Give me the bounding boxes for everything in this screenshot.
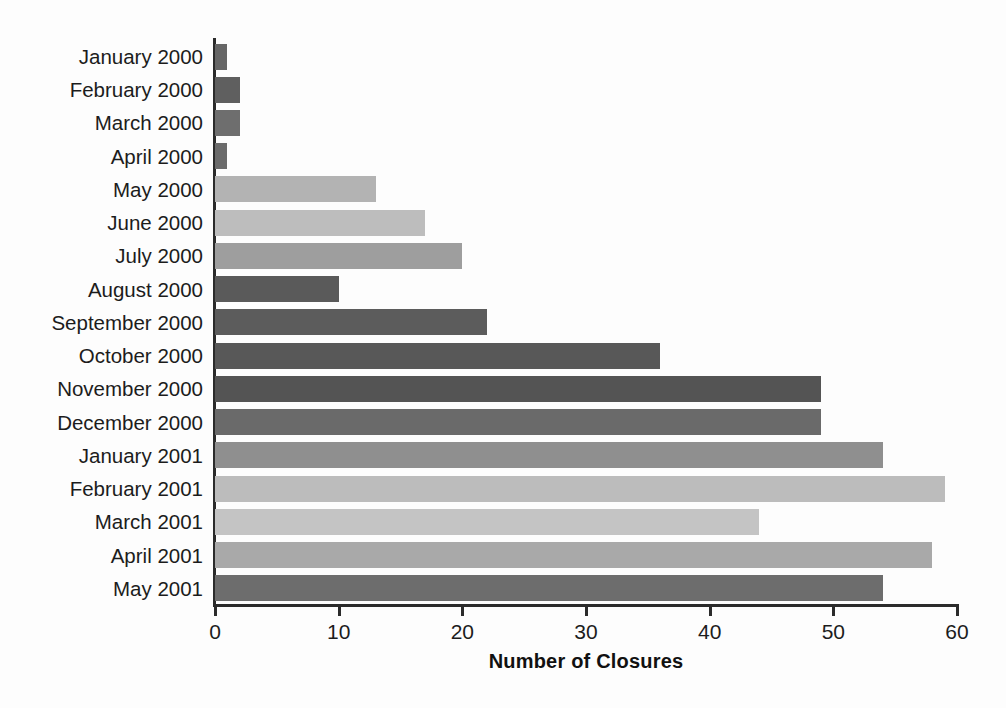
bar-row (215, 339, 957, 372)
bar (215, 176, 376, 202)
bar-row (215, 306, 957, 339)
bar (215, 476, 945, 502)
bar-row (215, 472, 957, 505)
y-axis-tick-label: May 2000 (113, 173, 213, 206)
bar-row (215, 273, 957, 306)
bar-row (215, 73, 957, 106)
bar (215, 409, 821, 435)
bar (215, 442, 883, 468)
x-axis-tick-mark (461, 604, 464, 616)
x-axis-tick-mark (338, 604, 341, 616)
y-axis-tick-label: April 2001 (111, 539, 213, 572)
y-axis-tick-label: March 2000 (95, 106, 213, 139)
y-axis-category-labels: January 2000February 2000March 2000April… (0, 40, 213, 605)
bar (215, 376, 821, 402)
bar (215, 343, 660, 369)
bar-row (215, 140, 957, 173)
bar-row (215, 173, 957, 206)
x-axis-tick-label: 10 (327, 620, 350, 644)
bar-row (215, 106, 957, 139)
x-axis-tick-mark (585, 604, 588, 616)
bar-row (215, 372, 957, 405)
bar-row (215, 572, 957, 605)
x-axis-tick-mark (709, 604, 712, 616)
bar (215, 309, 487, 335)
y-axis-tick-label: February 2001 (70, 472, 213, 505)
x-axis-tick-label: 0 (209, 620, 221, 644)
y-axis-tick-label: April 2000 (111, 140, 213, 173)
x-axis-tick-label: 40 (698, 620, 721, 644)
bar-row (215, 406, 957, 439)
y-axis-tick-label: March 2001 (95, 505, 213, 538)
y-axis-tick-label: January 2001 (79, 439, 213, 472)
bar (215, 243, 462, 269)
y-axis-tick-label: October 2000 (79, 339, 213, 372)
y-axis-tick-label: May 2001 (113, 572, 213, 605)
y-axis-tick-label: August 2000 (88, 273, 213, 306)
bar-row (215, 539, 957, 572)
x-axis-tick-mark (832, 604, 835, 616)
plot-area (215, 40, 957, 605)
bar (215, 44, 227, 70)
bar (215, 509, 759, 535)
x-axis-tick-mark (956, 604, 959, 616)
x-axis-tick-mark (214, 604, 217, 616)
y-axis-tick-label: June 2000 (107, 206, 213, 239)
x-axis-tick-label: 50 (822, 620, 845, 644)
bar (215, 575, 883, 601)
bar (215, 210, 425, 236)
bar-row (215, 239, 957, 272)
bar (215, 276, 339, 302)
bar-row (215, 439, 957, 472)
bar (215, 542, 932, 568)
y-axis-tick-label: January 2000 (79, 40, 213, 73)
x-axis-tick-label: 60 (945, 620, 968, 644)
y-axis-tick-label: February 2000 (70, 73, 213, 106)
x-axis-tick-label: 30 (574, 620, 597, 644)
bar-row (215, 206, 957, 239)
x-axis-tick-label: 20 (451, 620, 474, 644)
y-axis-tick-label: November 2000 (57, 372, 213, 405)
bar-row (215, 505, 957, 538)
bar (215, 77, 240, 103)
x-axis-title: Number of Closures (215, 650, 957, 673)
bar-chart-figure: January 2000February 2000March 2000April… (0, 0, 1006, 708)
y-axis-tick-label: December 2000 (57, 406, 213, 439)
bar-row (215, 40, 957, 73)
y-axis-tick-label: September 2000 (51, 306, 213, 339)
y-axis-tick-label: July 2000 (115, 239, 213, 272)
bar (215, 110, 240, 136)
bar (215, 143, 227, 169)
